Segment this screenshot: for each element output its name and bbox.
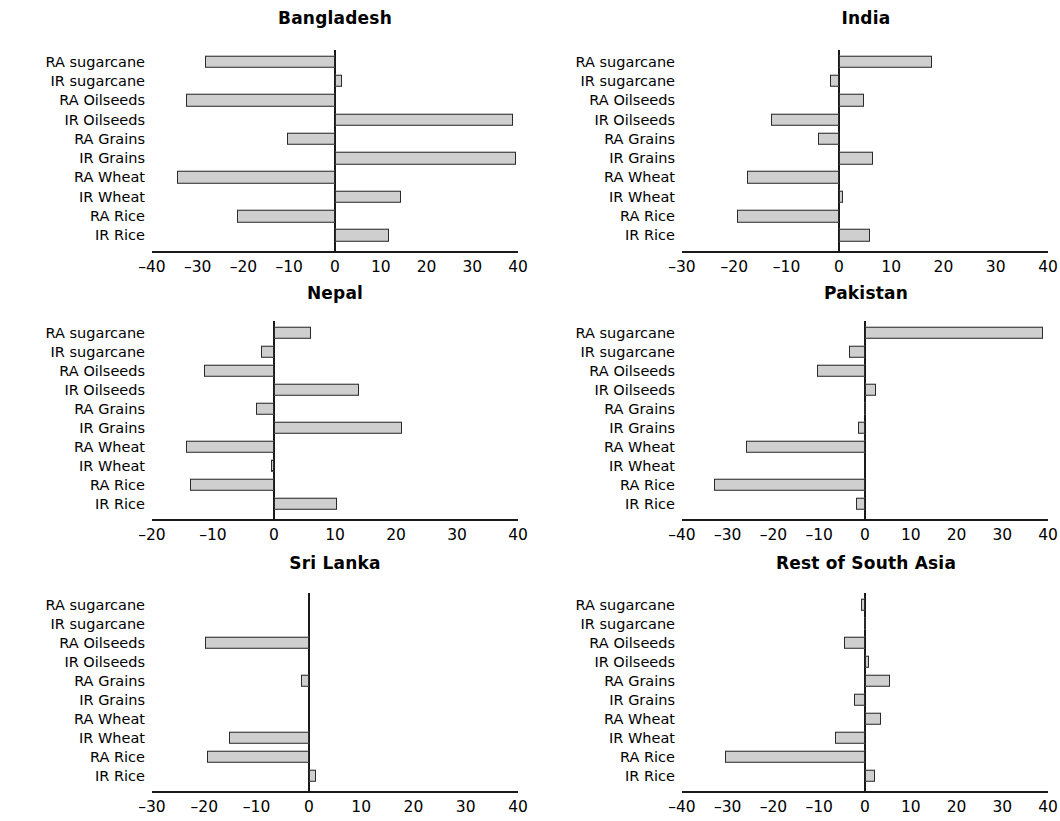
category-tick	[308, 688, 310, 693]
category-tick	[308, 593, 310, 598]
category-tick	[838, 146, 840, 151]
category-tick	[308, 612, 310, 617]
category-tick	[838, 50, 840, 55]
category-tick	[334, 146, 336, 151]
category-label: RA sugarcane	[576, 325, 675, 340]
x-tick-label: 20	[386, 526, 406, 544]
category-label: IR Wheat	[609, 730, 675, 745]
chart-grid: BangladeshRA sugarcaneIR sugarcaneRA Oil…	[0, 0, 1060, 821]
category-tick	[838, 243, 840, 248]
category-tick	[308, 707, 310, 712]
x-tick-label: 10	[325, 526, 345, 544]
category-label: RA sugarcane	[46, 54, 145, 69]
bar	[865, 712, 881, 725]
bar	[229, 731, 309, 744]
category-label: RA Grains	[604, 132, 675, 147]
category-tick	[864, 707, 866, 712]
category-tick	[838, 165, 840, 170]
plot-area: –20–10010203040	[152, 275, 518, 545]
plot-area: –30–20–10010203040	[152, 545, 518, 821]
category-tick	[334, 88, 336, 93]
category-label: RA Grains	[74, 401, 145, 416]
category-axis-labels: RA sugarcaneIR sugarcaneRA OilseedsIR Oi…	[0, 545, 145, 821]
category-tick	[864, 783, 866, 788]
chart-panel: IndiaRA sugarcaneIR sugarcaneRA Oilseeds…	[530, 0, 1060, 275]
category-tick	[273, 454, 275, 459]
category-label: IR Rice	[95, 768, 145, 783]
category-label: RA Oilseeds	[59, 363, 145, 378]
chart-panel: Sri LankaRA sugarcaneIR sugarcaneRA Oils…	[0, 545, 530, 821]
bar	[817, 364, 865, 377]
category-label: RA Rice	[90, 749, 145, 764]
category-label: RA Wheat	[604, 439, 675, 454]
x-tick-label: 30	[992, 526, 1012, 544]
category-tick	[334, 185, 336, 190]
category-tick	[864, 764, 866, 769]
x-tick-label: 0	[330, 258, 340, 276]
x-tick-label: 40	[1038, 526, 1058, 544]
category-tick	[864, 631, 866, 636]
category-tick	[308, 745, 310, 750]
category-label: IR Wheat	[79, 458, 145, 473]
bar	[725, 750, 865, 763]
x-tick-label: –10	[773, 258, 800, 276]
bar	[207, 750, 309, 763]
x-tick-label: 20	[404, 798, 424, 816]
x-tick-label: 0	[834, 258, 844, 276]
x-axis-line	[682, 251, 1048, 253]
x-tick-label: 30	[462, 258, 482, 276]
category-tick	[838, 107, 840, 112]
bar	[864, 617, 866, 630]
x-tick-label: –30	[714, 526, 741, 544]
bar	[335, 113, 513, 126]
bar	[309, 769, 316, 782]
bar	[301, 674, 309, 687]
category-label: IR Oilseeds	[594, 654, 675, 669]
category-tick	[273, 416, 275, 421]
category-tick	[334, 165, 336, 170]
bar	[714, 478, 865, 491]
x-tick-label: 0	[860, 526, 870, 544]
x-tick-label: 40	[508, 258, 528, 276]
category-label: RA sugarcane	[46, 325, 145, 340]
category-label: RA Oilseeds	[589, 635, 675, 650]
chart-panel: NepalRA sugarcaneIR sugarcaneRA Oilseeds…	[0, 275, 530, 545]
bar	[865, 326, 1043, 339]
category-label: RA Grains	[604, 673, 675, 688]
bar	[177, 171, 335, 184]
category-tick	[838, 223, 840, 228]
x-tick-label: –10	[276, 258, 303, 276]
category-label: IR Rice	[95, 496, 145, 511]
category-label: IR Wheat	[609, 190, 675, 205]
category-label: RA Rice	[620, 477, 675, 492]
category-label: IR Rice	[95, 228, 145, 243]
x-axis-line	[152, 791, 518, 793]
bar	[839, 94, 864, 107]
bar	[861, 598, 865, 611]
category-tick	[334, 69, 336, 74]
category-tick	[864, 321, 866, 326]
x-tick-label: –20	[191, 798, 218, 816]
category-tick	[864, 340, 866, 345]
category-label: RA Rice	[90, 209, 145, 224]
x-tick-label: –20	[230, 258, 257, 276]
x-axis-line	[682, 519, 1048, 521]
category-tick	[864, 416, 866, 421]
category-label: IR Oilseeds	[64, 112, 145, 127]
category-label: IR Grains	[609, 420, 675, 435]
bar	[865, 674, 890, 687]
bar	[830, 75, 839, 88]
category-label: RA Wheat	[74, 711, 145, 726]
category-label: IR Grains	[79, 151, 145, 166]
category-tick	[864, 650, 866, 655]
category-tick	[308, 631, 310, 636]
bar	[839, 229, 870, 242]
category-tick	[308, 764, 310, 769]
x-tick-label: –20	[760, 526, 787, 544]
category-label: RA Oilseeds	[59, 635, 145, 650]
bar	[746, 440, 865, 453]
category-axis-labels: RA sugarcaneIR sugarcaneRA OilseedsIR Oi…	[530, 0, 675, 275]
category-label: RA Oilseeds	[589, 363, 675, 378]
category-label: RA Oilseeds	[589, 93, 675, 108]
category-tick	[864, 454, 866, 459]
